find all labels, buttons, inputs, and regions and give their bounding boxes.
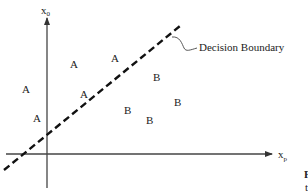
y-axis-label: x0 bbox=[41, 4, 51, 18]
cut-off-caption-text: t bbox=[305, 181, 308, 193]
class-a-point: A bbox=[70, 58, 78, 70]
decision-boundary-label: Decision Boundary bbox=[199, 41, 285, 53]
decision-boundary-line bbox=[4, 26, 180, 170]
class-b-point: B bbox=[174, 96, 181, 108]
class-a-point: A bbox=[80, 88, 88, 100]
class-a-point: A bbox=[111, 52, 119, 64]
decision-boundary-diagram: x0 xp Decision Boundary A A A A A B B B … bbox=[0, 0, 308, 193]
class-b-point: B bbox=[124, 104, 131, 116]
class-a-point: A bbox=[22, 83, 30, 95]
class-b-point: B bbox=[153, 71, 160, 83]
cut-off-caption-text: F bbox=[304, 168, 308, 180]
callout-leader bbox=[172, 37, 197, 50]
class-b-point: B bbox=[146, 114, 153, 126]
class-a-point: A bbox=[33, 112, 41, 124]
x-axis-label: xp bbox=[278, 148, 288, 163]
